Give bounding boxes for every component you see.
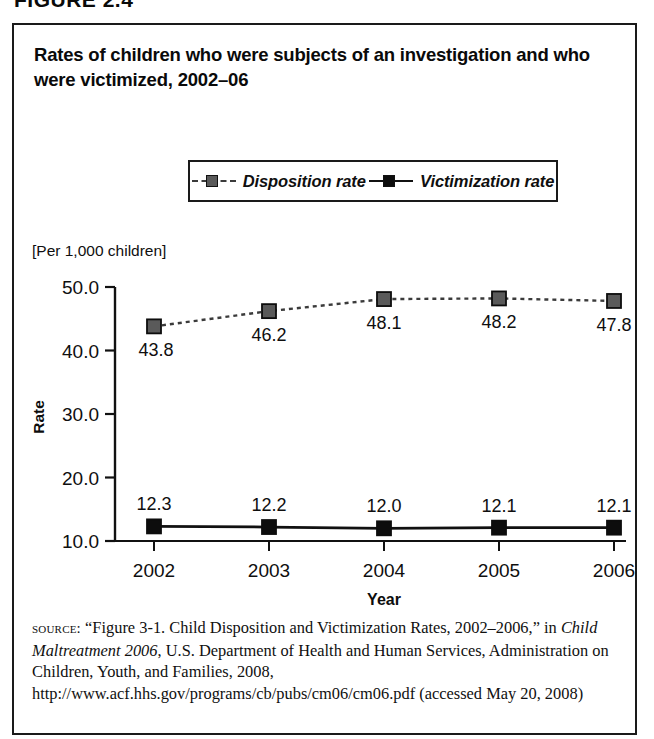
data-point-label: 12.0 (366, 496, 401, 516)
figure-number: FIGURE 2.4 (14, 0, 133, 12)
line-chart-plot: 10.020.030.040.050.0Rate2002200320042005… (14, 25, 639, 625)
y-axis-tick-label: 10.0 (62, 531, 99, 552)
y-axis-tick-label: 40.0 (62, 341, 99, 362)
y-axis-title: Rate (30, 400, 47, 434)
data-point-label: 12.2 (251, 495, 286, 515)
data-point-marker (492, 521, 506, 535)
data-point-marker (262, 520, 276, 534)
data-point-label: 43.8 (138, 340, 173, 360)
data-point-label: 48.1 (366, 313, 401, 333)
figure-container: Rates of children who were subjects of a… (12, 23, 637, 735)
y-axis-tick-label: 30.0 (62, 404, 99, 425)
data-point-marker (147, 319, 161, 333)
y-axis-tick-label: 50.0 (62, 277, 99, 298)
data-point-marker (492, 291, 506, 305)
data-point-marker (377, 521, 391, 535)
data-point-marker (147, 519, 161, 533)
source-note: source: “Figure 3-1. Child Disposition a… (32, 617, 622, 704)
data-point-label: 48.2 (481, 312, 516, 332)
source-text-part1: “Figure 3-1. Child Disposition and Victi… (81, 618, 561, 637)
data-point-marker (607, 521, 621, 535)
x-axis-tick-label: 2004 (363, 560, 406, 581)
data-point-marker (262, 304, 276, 318)
data-point-marker (377, 292, 391, 306)
data-point-marker (607, 294, 621, 308)
data-point-label: 12.3 (136, 494, 171, 514)
data-point-label: 12.1 (596, 496, 631, 516)
data-point-label: 46.2 (251, 325, 286, 345)
data-point-label: 12.1 (481, 496, 516, 516)
x-axis-tick-label: 2003 (248, 560, 290, 581)
y-axis-tick-label: 20.0 (62, 468, 99, 489)
x-axis-tick-label: 2005 (478, 560, 520, 581)
x-axis-title: Year (367, 591, 401, 608)
source-label: source: (32, 620, 81, 636)
x-axis-tick-label: 2002 (133, 560, 175, 581)
x-axis-tick-label: 2006 (593, 560, 635, 581)
data-point-label: 47.8 (596, 315, 631, 335)
